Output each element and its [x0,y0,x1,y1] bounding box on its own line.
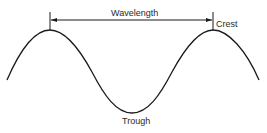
wavelength-label: Wavelength [111,9,158,18]
wave-diagram: Wavelength Crest Trough [0,0,267,133]
arrowhead-left-icon [51,18,57,22]
crest-label: Crest [216,20,238,29]
wave-curve [7,30,259,113]
trough-label: Trough [122,117,150,126]
arrowhead-right-icon [206,18,212,22]
